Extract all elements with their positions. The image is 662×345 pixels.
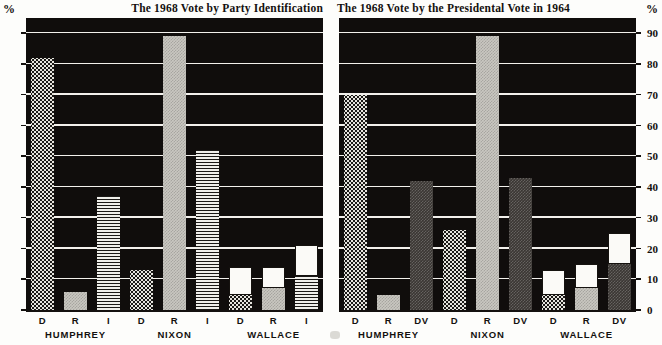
group-label-humphrey: HUMPHREY — [339, 329, 438, 340]
page-smudge — [330, 331, 340, 339]
y-tick-50 — [636, 155, 641, 157]
bar-segment-base — [262, 288, 285, 310]
y-tick-label-0: 0 — [647, 305, 662, 316]
bar-segment-base — [443, 230, 466, 310]
x-axis-line-right — [339, 310, 636, 312]
bar-segment-base — [130, 270, 153, 310]
x-tick-label-wallace-r: R — [569, 315, 604, 326]
y-tick-label-30: 30 — [647, 213, 662, 224]
bar-left-wallace-i — [295, 245, 318, 310]
y-axis-unit-left: % — [3, 2, 15, 17]
bar-segment-top — [262, 267, 285, 289]
bar-segment-base — [97, 196, 120, 310]
y-tick-label-70: 70 — [647, 90, 662, 101]
bar-segment-top — [229, 267, 252, 295]
bar-right-wallace-r — [575, 264, 598, 310]
y-tick-70 — [21, 94, 26, 96]
x-tick-label-humphrey-r: R — [58, 315, 93, 326]
group-label-nixon: NIXON — [438, 329, 537, 340]
x-tick-label-wallace-i: I — [289, 315, 324, 326]
group-label-nixon: NIXON — [125, 329, 224, 340]
plot-area-right — [339, 18, 636, 310]
y-tick-label-60: 60 — [647, 121, 662, 132]
chart-title-left: The 1968 Vote by Party Identification — [131, 2, 323, 17]
bar-left-humphrey-r — [64, 292, 87, 310]
y-tick-80 — [21, 63, 26, 65]
x-tick-label-nixon-d: D — [437, 315, 472, 326]
bar-segment-base — [295, 276, 318, 310]
x-tick-label-wallace-r: R — [256, 315, 291, 326]
bar-segment-top — [295, 245, 318, 276]
y-tick-0 — [636, 309, 641, 311]
y-tick-80 — [636, 63, 641, 65]
chart-page: % The 1968 Vote by Party Identification … — [0, 0, 662, 345]
bar-segment-top — [575, 264, 598, 289]
bar-segment-base — [196, 150, 219, 310]
bar-left-nixon-i — [196, 150, 219, 310]
y-tick-70 — [636, 94, 641, 96]
y-tick-20 — [21, 248, 26, 250]
y-tick-30 — [636, 217, 641, 219]
bar-right-nixon-d — [443, 230, 466, 310]
bar-segment-base — [476, 36, 499, 310]
y-tick-90 — [636, 32, 641, 34]
bar-right-wallace-d — [542, 270, 565, 310]
bar-left-wallace-r — [262, 267, 285, 310]
bar-segment-base — [608, 264, 631, 310]
group-label-wallace: WALLACE — [224, 329, 323, 340]
y-axis-unit-right: % — [646, 2, 658, 17]
y-tick-label-10: 10 — [647, 274, 662, 285]
x-tick-label-nixon-dv: DV — [503, 315, 538, 326]
bar-segment-base — [410, 181, 433, 310]
x-tick-label-wallace-d: D — [536, 315, 571, 326]
x-tick-label-wallace-dv: DV — [602, 315, 637, 326]
y-tick-10 — [21, 278, 26, 280]
bar-segment-base — [542, 295, 565, 310]
bar-segment-base — [229, 295, 252, 310]
bar-segment-base — [31, 58, 54, 310]
x-tick-label-humphrey-d: D — [25, 315, 60, 326]
bar-segment-base — [344, 95, 367, 310]
bar-left-humphrey-i — [97, 196, 120, 310]
bar-right-nixon-dv — [509, 178, 532, 310]
y-tick-20 — [636, 248, 641, 250]
y-tick-label-20: 20 — [647, 244, 662, 255]
x-tick-label-wallace-d: D — [223, 315, 258, 326]
gridline-90 — [339, 32, 636, 34]
x-tick-label-nixon-d: D — [124, 315, 159, 326]
plot-area-left — [26, 18, 323, 310]
y-tick-10 — [636, 278, 641, 280]
x-tick-label-humphrey-dv: DV — [404, 315, 439, 326]
bar-left-nixon-r — [163, 36, 186, 310]
bar-right-nixon-r — [476, 36, 499, 310]
group-label-humphrey: HUMPHREY — [26, 329, 125, 340]
y-tick-label-80: 80 — [647, 59, 662, 70]
bar-segment-top — [608, 233, 631, 264]
bar-left-nixon-d — [130, 270, 153, 310]
bar-segment-base — [509, 178, 532, 310]
y-tick-30 — [21, 217, 26, 219]
y-tick-50 — [21, 155, 26, 157]
bar-segment-base — [575, 288, 598, 310]
bar-right-humphrey-dv — [410, 181, 433, 310]
x-tick-label-nixon-r: R — [157, 315, 192, 326]
y-tick-0 — [21, 309, 26, 311]
bar-segment-top — [542, 270, 565, 295]
bar-segment-base — [377, 295, 400, 310]
bar-left-wallace-d — [229, 267, 252, 310]
bar-left-humphrey-d — [31, 58, 54, 310]
group-label-wallace: WALLACE — [537, 329, 636, 340]
x-tick-label-nixon-r: R — [470, 315, 505, 326]
y-tick-60 — [636, 125, 641, 127]
gridline-90 — [26, 32, 323, 34]
x-tick-label-humphrey-r: R — [371, 315, 406, 326]
chart-panel-right: % The 1968 Vote by the Presidental Vote … — [331, 0, 662, 345]
bar-right-humphrey-d — [344, 95, 367, 310]
bar-segment-base — [163, 36, 186, 310]
y-tick-40 — [636, 186, 641, 188]
x-tick-label-humphrey-d: D — [338, 315, 373, 326]
bar-right-wallace-dv — [608, 233, 631, 310]
x-axis-line-left — [26, 310, 323, 312]
y-tick-60 — [21, 125, 26, 127]
x-tick-label-humphrey-i: I — [91, 315, 126, 326]
